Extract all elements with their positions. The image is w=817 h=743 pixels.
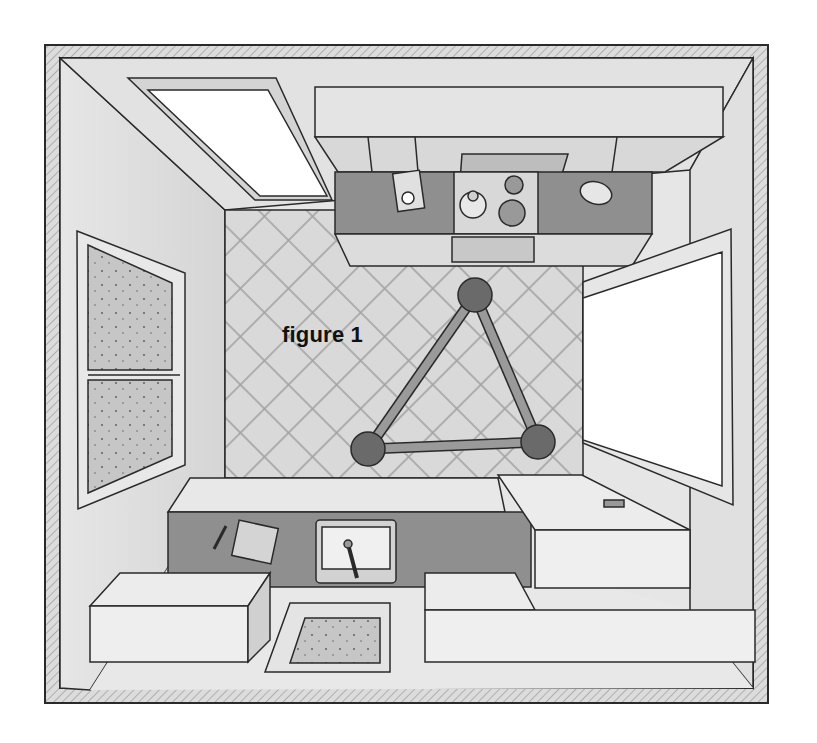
kitchen-illustration bbox=[0, 0, 817, 743]
sink-counter bbox=[168, 478, 531, 587]
upper-cabinets bbox=[315, 87, 723, 181]
triangle-node-sink bbox=[351, 432, 385, 466]
figure-label: figure 1 bbox=[282, 322, 363, 348]
triangle-node-stove bbox=[458, 278, 492, 312]
left-window bbox=[77, 231, 185, 509]
back-counter bbox=[335, 170, 652, 266]
triangle-node-fridge bbox=[521, 425, 555, 459]
